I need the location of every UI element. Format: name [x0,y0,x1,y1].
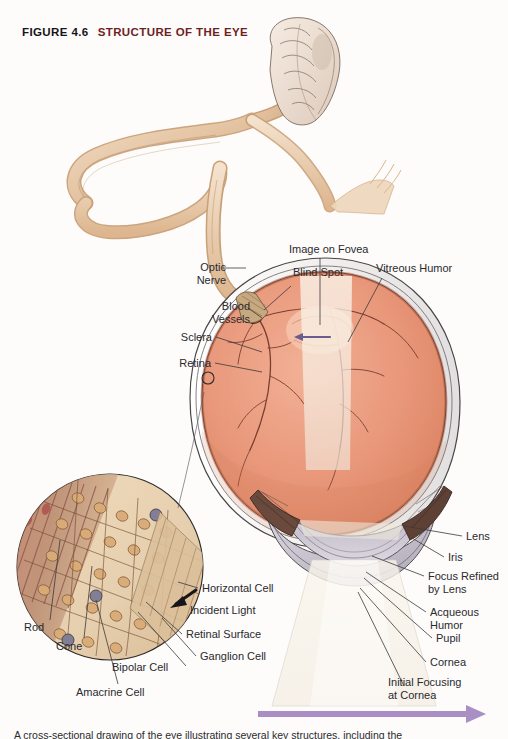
label-acqueous-humor: Acqueous Humor [430,606,479,631]
optic-nerve-tract-group [74,18,401,298]
figure-page: FIGURE 4.6STRUCTURE OF THE EYE Optic Ner… [0,0,508,739]
label-optic-nerve: Optic Nerve [190,261,226,286]
label-image-on-fovea: Image on Fovea [289,243,369,256]
label-cornea: Cornea [430,656,466,669]
label-blind-spot: Blind Spot [293,266,343,279]
label-incident-light: Incident Light [190,604,255,617]
label-pupil: Pupil [436,632,460,645]
label-rod: Rod [24,621,44,634]
label-amacrine-cell: Amacrine Cell [76,686,144,699]
label-horizontal-cell: Horizontal Cell [202,582,274,595]
label-bipolar-cell: Bipolar Cell [112,661,168,674]
label-retinal-surface: Retinal Surface [186,628,261,641]
figure-title: FIGURE 4.6STRUCTURE OF THE EYE [22,22,248,40]
label-retina: Retina [165,357,211,370]
light-direction-arrow-icon [258,705,486,723]
label-iris: Iris [448,551,463,564]
figure-number: FIGURE 4.6 [22,26,89,38]
label-sclera: Sclera [166,331,212,344]
label-initial-focusing-at-cornea: Initial Focusing at Cornea [388,676,461,701]
label-blood-vessels: Blood Vessels [196,300,250,325]
figure-name: STRUCTURE OF THE EYE [98,26,248,38]
brain-structure [270,18,340,125]
label-focus-refined-by-lens: Focus Refined by Lens [428,570,499,595]
label-ganglion-cell: Ganglion Cell [200,650,266,663]
label-vitreous-humor: Vitreous Humor [376,262,452,275]
label-lens: Lens [466,530,490,543]
figure-caption: A cross-sectional drawing of the eye ill… [14,729,494,739]
label-cone: Cone [56,640,82,653]
